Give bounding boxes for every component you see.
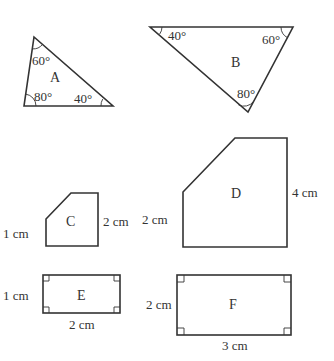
- side-label-f-width: 3 cm: [222, 338, 248, 353]
- pentagon-c: C 1 cm 2 cm: [3, 193, 129, 246]
- shape-label-c: C: [66, 214, 75, 229]
- pentagon-d: D 2 cm 4 cm: [142, 138, 318, 247]
- right-angle-mark-f-tl: [177, 275, 184, 282]
- angle-label-b-top-left: 40°: [168, 28, 186, 43]
- angle-label-b-top-right: 60°: [262, 32, 280, 47]
- angle-arc-a-bottom-right: [101, 99, 103, 106]
- side-label-f-height: 2 cm: [146, 297, 172, 312]
- angle-label-a-bottom-left: 80°: [34, 89, 52, 104]
- right-angle-mark-e-br: [114, 307, 120, 313]
- angle-label-b-bottom: 80°: [237, 86, 255, 101]
- angle-arc-a-top: [32, 44, 42, 49]
- triangle-b: 40° 60° B 80°: [150, 27, 293, 112]
- side-label-c-right: 2 cm: [103, 214, 129, 229]
- side-label-e-height: 1 cm: [3, 288, 29, 303]
- shape-label-f: F: [229, 297, 237, 312]
- shape-label-e: E: [77, 288, 86, 303]
- right-angle-mark-f-bl: [177, 328, 184, 335]
- right-angle-mark-e-tr: [114, 275, 120, 281]
- rectangle-f: F 2 cm 3 cm: [146, 275, 291, 353]
- side-label-d-left: 2 cm: [142, 212, 168, 227]
- right-angle-mark-f-br: [284, 328, 291, 335]
- shapes-diagram: 60° A 80° 40° 40° 60° B 80° C 1 cm 2 cm …: [0, 0, 334, 361]
- angle-label-a-top: 60°: [32, 53, 50, 68]
- right-angle-mark-e-tl: [43, 275, 49, 281]
- rectangle-e: E 1 cm 2 cm: [3, 275, 120, 332]
- angle-label-a-bottom-right: 40°: [74, 91, 92, 106]
- angle-arc-b-top-right: [281, 27, 287, 38]
- side-label-d-right: 4 cm: [292, 185, 318, 200]
- triangle-a: 60° A 80° 40°: [24, 37, 113, 106]
- shape-label-b: B: [231, 55, 240, 70]
- side-label-e-width: 2 cm: [69, 317, 95, 332]
- right-angle-mark-e-bl: [43, 307, 49, 313]
- side-label-c-left: 1 cm: [3, 226, 29, 241]
- angle-arc-b-top-left: [160, 27, 162, 34]
- right-angle-mark-f-tr: [284, 275, 291, 282]
- shape-label-a: A: [50, 70, 61, 85]
- shape-label-d: D: [231, 186, 241, 201]
